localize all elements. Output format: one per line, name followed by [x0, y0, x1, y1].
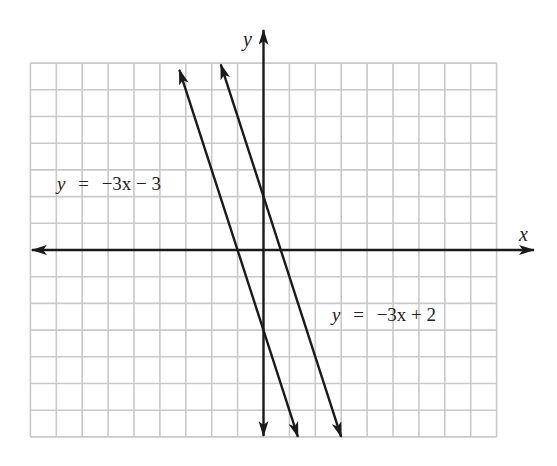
line1-label: y = −3x − 3	[55, 173, 161, 194]
svg-text:y = −3x − 3: y = −3x − 3	[55, 173, 161, 194]
line2-label-eq: =	[353, 304, 364, 325]
line1-label-y: y	[55, 173, 66, 194]
line1-label-eq: =	[78, 173, 89, 194]
line2-label: y = −3x + 2	[330, 304, 436, 325]
line2-label-y: y	[330, 304, 341, 325]
line1-label-rhs: −3x − 3	[102, 173, 161, 194]
line2-label-rhs: −3x + 2	[377, 304, 436, 325]
line-1	[179, 70, 298, 437]
x-axis-label: x	[518, 223, 528, 245]
coordinate-plane: x y y = −3x − 3 y = −3x + 2	[0, 0, 557, 466]
svg-text:y = −3x + 2: y = −3x + 2	[330, 304, 436, 325]
y-axis-label: y	[241, 28, 252, 51]
